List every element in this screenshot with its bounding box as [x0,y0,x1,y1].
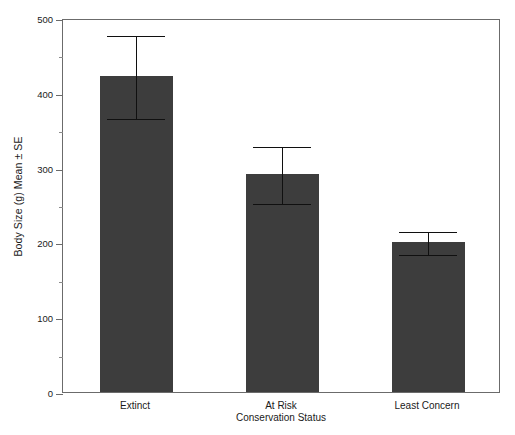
bar-chart-figure: Body Size (g) Mean ± SE 0100200300400500… [0,0,515,435]
y-axis-tick [56,394,63,395]
y-axis-minor-tick [59,132,63,133]
y-axis-minor-tick [59,57,63,58]
y-axis-title-text: Body Size (g) Mean ± SE [12,136,24,256]
y-axis-tick-label: 400 [37,90,53,100]
x-axis-tick-label: At Risk [265,400,297,411]
error-bar-cap-upper [253,147,311,148]
bar [100,76,173,392]
bar [246,174,319,392]
x-axis-title: Conservation Status [62,412,500,423]
y-axis-tick [56,170,63,171]
error-bar-cap-upper [399,232,457,233]
error-bar-cap-lower [253,204,311,205]
y-axis-minor-tick [59,282,63,283]
y-axis-tick [56,95,63,96]
y-axis-minor-tick [59,207,63,208]
y-axis-tick-label: 300 [37,165,53,175]
y-axis-tick [56,319,63,320]
y-axis-title: Body Size (g) Mean ± SE [8,0,28,393]
error-bar-stem [136,36,137,118]
y-axis-tick [56,20,63,21]
error-bar-cap-lower [399,255,457,256]
y-axis-minor-tick [59,357,63,358]
y-axis-tick-label: 500 [37,15,53,25]
y-axis-tick [56,244,63,245]
x-axis-tick-label: Extinct [120,400,150,411]
error-bar-cap-upper [107,36,165,37]
x-axis-tick-label: Least Concern [394,400,459,411]
y-axis-tick-label: 200 [37,240,53,250]
y-axis-tick-label: 0 [48,389,53,399]
y-axis-tick-label: 100 [37,314,53,324]
plot-area: 0100200300400500 [62,19,500,393]
error-bar-cap-lower [107,119,165,120]
error-bar-stem [428,232,429,254]
bar [392,242,465,392]
error-bar-stem [282,147,283,204]
